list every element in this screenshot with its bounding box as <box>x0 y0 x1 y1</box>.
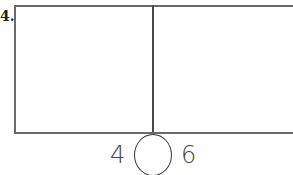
right-number: 6 <box>181 143 196 167</box>
comparison-circle-blank[interactable] <box>134 134 172 175</box>
left-number: 4 <box>110 143 125 167</box>
problem-number: 4. <box>0 8 14 24</box>
box-divider <box>152 5 154 132</box>
